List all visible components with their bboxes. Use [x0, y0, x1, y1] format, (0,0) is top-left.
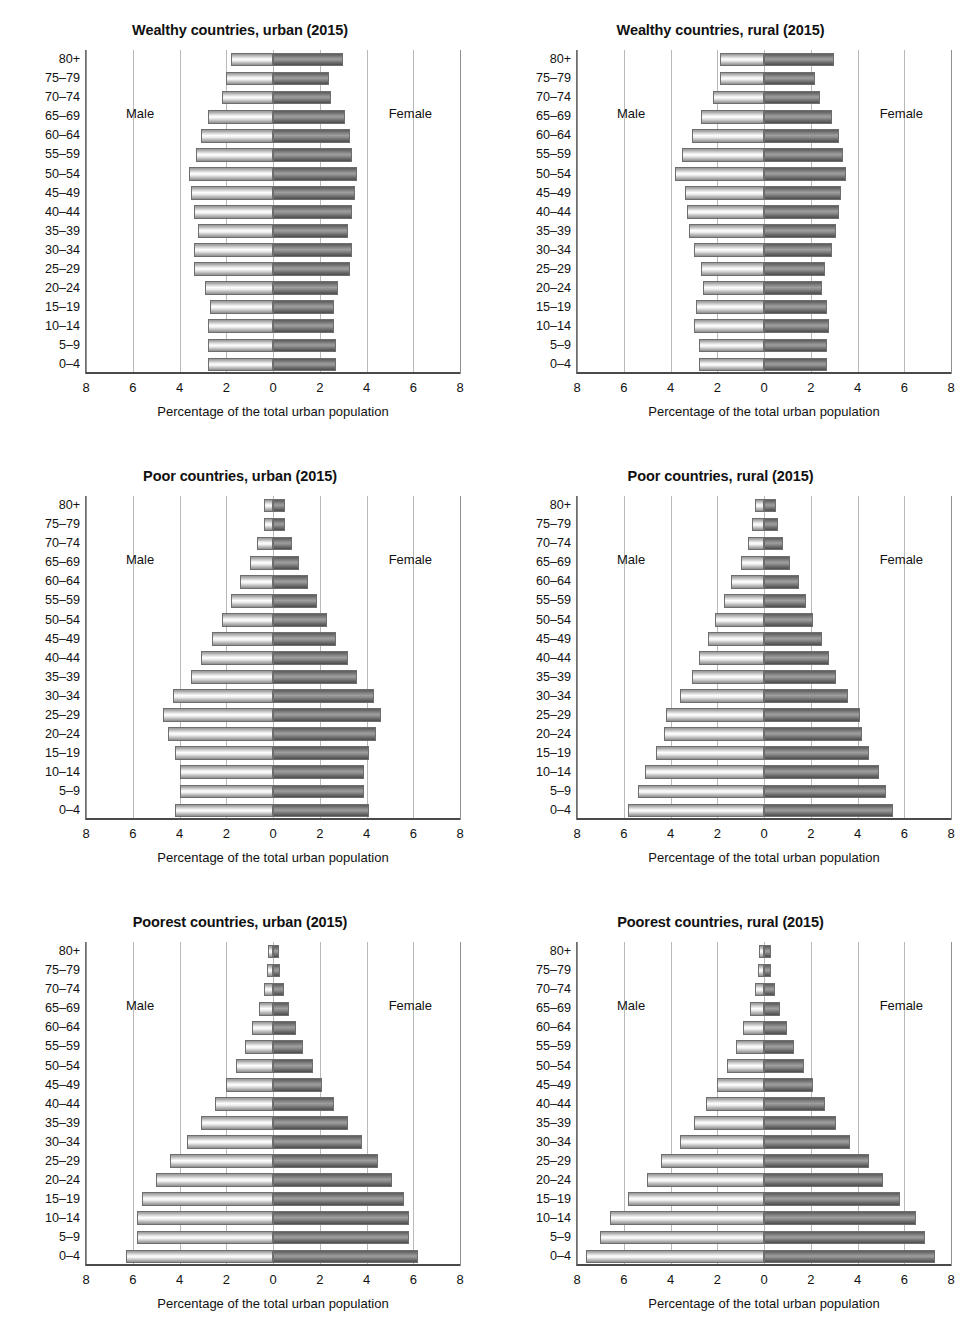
bar-pair: [86, 1021, 460, 1035]
bar-male: [194, 205, 273, 219]
panel-title: Poor countries, rural (2015): [480, 468, 961, 484]
bar-pair: [86, 670, 460, 684]
bar-male: [645, 765, 764, 779]
bar-female: [273, 983, 284, 997]
bar-pair: [577, 1097, 951, 1111]
x-axis-ticks: 864202468: [577, 374, 951, 400]
bar-male: [245, 1040, 273, 1054]
bar-row: [86, 164, 460, 183]
bar-female: [764, 1002, 780, 1016]
bar-row: [86, 763, 460, 782]
bar-row: [577, 317, 951, 336]
bar-female: [764, 964, 771, 978]
y-axis-tick-label: 25–29: [24, 706, 80, 725]
bar-pair: [86, 1135, 460, 1149]
bar-male: [252, 1021, 273, 1035]
bar-female: [764, 91, 820, 105]
y-axis-tick-label: 5–9: [24, 782, 80, 801]
bar-female: [273, 537, 292, 551]
bar-male: [156, 1173, 273, 1187]
y-axis-tick-label: 75–79: [24, 69, 80, 88]
bar-female: [273, 167, 357, 181]
bar-male: [226, 72, 273, 86]
bar-pair: [86, 1192, 460, 1206]
bar-female: [764, 556, 790, 570]
y-axis-tick-label: 70–74: [515, 980, 571, 999]
bar-pair: [577, 983, 951, 997]
bar-pair: [86, 708, 460, 722]
bar-pair: [86, 594, 460, 608]
y-axis-tick-label: 30–34: [24, 687, 80, 706]
bar-male: [682, 148, 764, 162]
y-axis-tick-label: 50–54: [24, 1056, 80, 1075]
y-axis-tick-label: 10–14: [24, 1209, 80, 1228]
bar-female: [273, 186, 355, 200]
bar-female: [273, 670, 357, 684]
bar-pair: [577, 499, 951, 513]
bar-row: [577, 1056, 951, 1075]
bar-female: [764, 765, 879, 779]
y-axis-tick-label: 20–24: [24, 725, 80, 744]
bar-female: [764, 613, 813, 627]
bar-female: [764, 651, 829, 665]
bar-female: [764, 1135, 850, 1149]
y-axis-tick-label: 60–64: [515, 572, 571, 591]
x-axis-tick-label: 4: [363, 380, 370, 395]
x-axis-tick-label: 2: [223, 380, 230, 395]
bar-male: [713, 91, 764, 105]
bar-pair: [86, 319, 460, 333]
x-axis-tick-label: 4: [854, 1272, 861, 1287]
bar-male: [222, 91, 273, 105]
bar-female: [764, 319, 829, 333]
bar-female: [273, 1097, 334, 1111]
bar-male: [187, 1135, 273, 1149]
x-axis-tick-label: 8: [573, 380, 580, 395]
bar-male: [126, 1250, 273, 1264]
y-axis-tick-label: 40–44: [24, 648, 80, 667]
panel-title: Wealthy countries, rural (2015): [480, 22, 961, 38]
y-axis-tick-label: 5–9: [24, 1228, 80, 1247]
bar-pair: [577, 594, 951, 608]
x-axis-tick-label: 0: [269, 826, 276, 841]
bar-row: [577, 355, 951, 374]
bar-male: [717, 1078, 764, 1092]
bar-male: [694, 319, 764, 333]
y-axis-tick-label: 60–64: [24, 572, 80, 591]
bar-pair: [86, 689, 460, 703]
bar-row: [86, 1247, 460, 1266]
bar-male: [175, 804, 273, 818]
bar-female: [273, 129, 350, 143]
bar-female: [764, 110, 832, 124]
y-axis-tick-label: 15–19: [515, 298, 571, 317]
x-axis-tick-label: 0: [760, 1272, 767, 1287]
bar-row: [86, 1190, 460, 1209]
bar-male: [180, 765, 274, 779]
x-axis-tick-label: 8: [947, 826, 954, 841]
bar-row: [577, 298, 951, 317]
bar-rows: [86, 496, 460, 820]
bar-male: [208, 319, 273, 333]
y-axis-tick-label: 20–24: [24, 279, 80, 298]
y-axis-labels: 0–45–910–1415–1920–2425–2930–3435–3940–4…: [24, 50, 86, 374]
bar-row: [86, 648, 460, 667]
x-axis-title: Percentage of the total urban population: [86, 850, 460, 865]
bar-row: [577, 629, 951, 648]
y-axis-tick-label: 10–14: [24, 317, 80, 336]
y-axis-tick-label: 30–34: [24, 241, 80, 260]
bar-row: [86, 534, 460, 553]
bar-male: [748, 537, 764, 551]
y-axis-tick-label: 25–29: [24, 1152, 80, 1171]
y-axis-tick-label: 40–44: [515, 1094, 571, 1113]
x-axis-tick-label: 2: [223, 1272, 230, 1287]
y-axis-tick-label: 80+: [24, 50, 80, 69]
x-axis-tick-label: 2: [807, 1272, 814, 1287]
bar-row: [86, 629, 460, 648]
plot-area: 0–45–910–1415–1920–2425–2930–3435–3940–4…: [577, 496, 951, 820]
x-axis-tick-label: 6: [129, 1272, 136, 1287]
bar-pair: [86, 300, 460, 314]
plot-area: 0–45–910–1415–1920–2425–2930–3435–3940–4…: [577, 942, 951, 1266]
bar-male: [189, 167, 273, 181]
y-axis-tick-label: 15–19: [24, 298, 80, 317]
x-axis-tick-label: 4: [363, 826, 370, 841]
bar-pair: [577, 1154, 951, 1168]
